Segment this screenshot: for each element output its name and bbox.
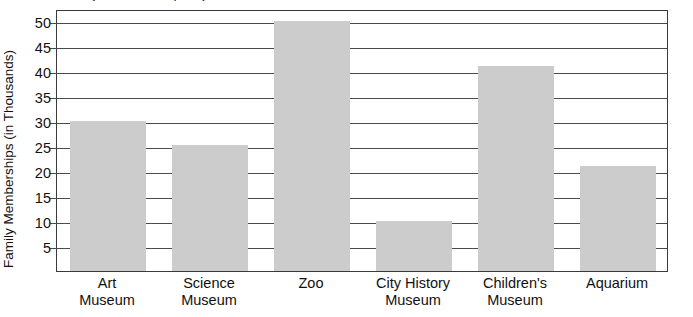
x-category-label-line: Art [56, 275, 158, 292]
y-tick-label: 10 [35, 216, 51, 231]
bar [274, 21, 350, 271]
gridline [57, 173, 667, 174]
clipped-caption-text: Family Memberships by Institution [56, 0, 656, 1]
gridline [57, 123, 667, 124]
x-category-label-line: Aquarium [566, 275, 668, 292]
x-category-label-line: Museum [464, 292, 566, 309]
y-tick-label: 45 [35, 41, 51, 56]
y-tick-label: 50 [35, 16, 51, 31]
gridline [57, 48, 667, 49]
x-category-label: Children'sMuseum [464, 275, 566, 309]
y-tick-label: 40 [35, 66, 51, 81]
x-category-label-line: Museum [158, 292, 260, 309]
gridline [57, 248, 667, 249]
y-tick-label: 35 [35, 91, 51, 106]
x-category-label-line: City History [362, 275, 464, 292]
y-tick-mark [50, 148, 57, 149]
y-tick-label: 30 [35, 116, 51, 131]
y-tick-label: 15 [35, 191, 51, 206]
bar [478, 66, 554, 271]
y-tick-mark [50, 48, 57, 49]
y-tick-label: 5 [43, 241, 51, 256]
y-tick-label: 20 [35, 166, 51, 181]
x-category-label: City HistoryMuseum [362, 275, 464, 309]
bar [172, 145, 248, 271]
gridline [57, 223, 667, 224]
bar [580, 166, 656, 271]
gridline [57, 98, 667, 99]
y-tick-mark [50, 98, 57, 99]
x-category-label: Zoo [260, 275, 362, 292]
gridline [57, 148, 667, 149]
plot-area: 5101520253035404550 [56, 10, 668, 272]
x-category-label-line: Zoo [260, 275, 362, 292]
y-tick-mark [50, 123, 57, 124]
y-axis-title: Family Memberships (in Thousands) [0, 28, 18, 290]
y-tick-mark [50, 73, 57, 74]
x-category-label: ScienceMuseum [158, 275, 260, 309]
gridline [57, 23, 667, 24]
bar [376, 221, 452, 271]
x-category-label-line: Children's [464, 275, 566, 292]
gridline [57, 73, 667, 74]
y-tick-mark [50, 223, 57, 224]
x-category-label-line: Museum [56, 292, 158, 309]
y-tick-mark [50, 248, 57, 249]
bar-chart-figure: Family Memberships by Institution Family… [0, 0, 693, 317]
x-category-label-line: Science [158, 275, 260, 292]
x-category-label: ArtMuseum [56, 275, 158, 309]
y-tick-mark [50, 198, 57, 199]
y-tick-mark [50, 173, 57, 174]
y-tick-label: 25 [35, 141, 51, 156]
x-category-label-line: Museum [362, 292, 464, 309]
bar [70, 121, 146, 271]
x-category-label: Aquarium [566, 275, 668, 292]
gridline [57, 198, 667, 199]
y-tick-mark [50, 23, 57, 24]
